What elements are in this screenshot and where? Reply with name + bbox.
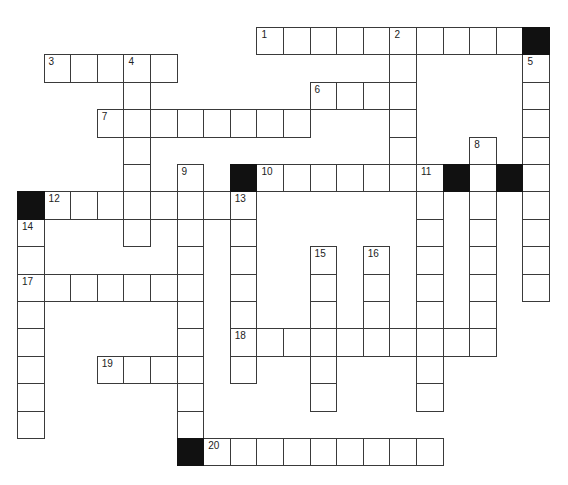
crossword-cell[interactable]: 1 <box>256 27 284 55</box>
crossword-cell[interactable]: 10 <box>256 164 284 192</box>
crossword-cell[interactable] <box>310 383 338 411</box>
crossword-cell[interactable] <box>230 109 258 137</box>
crossword-cell[interactable] <box>336 438 364 466</box>
crossword-cell[interactable] <box>256 328 284 356</box>
crossword-cell[interactable] <box>522 82 550 110</box>
crossword-cell[interactable] <box>522 274 550 302</box>
crossword-cell[interactable] <box>123 109 151 137</box>
crossword-cell[interactable] <box>283 164 311 192</box>
crossword-cell[interactable] <box>177 328 205 356</box>
crossword-cell[interactable] <box>283 109 311 137</box>
crossword-cell[interactable] <box>17 383 45 411</box>
crossword-cell[interactable] <box>123 137 151 165</box>
crossword-cell[interactable] <box>230 219 258 247</box>
crossword-cell[interactable] <box>97 274 125 302</box>
crossword-cell[interactable] <box>177 301 205 329</box>
crossword-cell[interactable] <box>230 274 258 302</box>
crossword-cell[interactable]: 6 <box>310 82 338 110</box>
crossword-cell[interactable] <box>522 164 550 192</box>
crossword-cell[interactable] <box>17 411 45 439</box>
crossword-cell[interactable] <box>123 191 151 219</box>
crossword-cell[interactable] <box>416 274 444 302</box>
crossword-cell[interactable] <box>177 274 205 302</box>
crossword-cell[interactable] <box>17 356 45 384</box>
crossword-cell[interactable] <box>522 246 550 274</box>
crossword-cell[interactable] <box>522 137 550 165</box>
crossword-cell[interactable] <box>416 191 444 219</box>
crossword-cell[interactable] <box>310 301 338 329</box>
crossword-cell[interactable] <box>522 219 550 247</box>
crossword-cell[interactable] <box>469 191 497 219</box>
crossword-cell[interactable] <box>310 27 338 55</box>
crossword-cell[interactable] <box>310 164 338 192</box>
crossword-cell[interactable]: 5 <box>522 54 550 82</box>
crossword-cell[interactable] <box>389 82 417 110</box>
crossword-cell[interactable] <box>44 274 72 302</box>
crossword-cell[interactable] <box>469 246 497 274</box>
crossword-cell[interactable]: 13 <box>230 191 258 219</box>
crossword-cell[interactable] <box>310 328 338 356</box>
crossword-cell[interactable]: 3 <box>44 54 72 82</box>
crossword-cell[interactable] <box>389 137 417 165</box>
crossword-cell[interactable]: 14 <box>17 219 45 247</box>
crossword-cell[interactable] <box>177 411 205 439</box>
crossword-cell[interactable] <box>123 164 151 192</box>
crossword-cell[interactable] <box>17 328 45 356</box>
crossword-cell[interactable] <box>363 27 391 55</box>
crossword-cell[interactable]: 18 <box>230 328 258 356</box>
crossword-cell[interactable]: 20 <box>203 438 231 466</box>
crossword-cell[interactable] <box>416 356 444 384</box>
crossword-cell[interactable] <box>283 328 311 356</box>
crossword-cell[interactable] <box>363 274 391 302</box>
crossword-cell[interactable] <box>416 328 444 356</box>
crossword-cell[interactable] <box>177 383 205 411</box>
crossword-cell[interactable] <box>17 301 45 329</box>
crossword-cell[interactable] <box>389 54 417 82</box>
crossword-cell[interactable]: 17 <box>17 274 45 302</box>
crossword-cell[interactable] <box>443 328 471 356</box>
crossword-cell[interactable] <box>389 164 417 192</box>
crossword-cell[interactable]: 11 <box>416 164 444 192</box>
crossword-cell[interactable] <box>389 438 417 466</box>
crossword-cell[interactable] <box>363 301 391 329</box>
crossword-cell[interactable] <box>150 191 178 219</box>
crossword-cell[interactable] <box>416 438 444 466</box>
crossword-cell[interactable] <box>70 54 98 82</box>
crossword-cell[interactable] <box>363 438 391 466</box>
crossword-cell[interactable] <box>177 191 205 219</box>
crossword-cell[interactable] <box>150 54 178 82</box>
crossword-cell[interactable] <box>336 164 364 192</box>
crossword-cell[interactable] <box>123 356 151 384</box>
crossword-cell[interactable] <box>336 82 364 110</box>
crossword-cell[interactable] <box>416 246 444 274</box>
crossword-cell[interactable] <box>469 27 497 55</box>
crossword-cell[interactable] <box>416 383 444 411</box>
crossword-cell[interactable] <box>469 164 497 192</box>
crossword-cell[interactable] <box>123 274 151 302</box>
crossword-cell[interactable] <box>522 109 550 137</box>
crossword-cell[interactable]: 7 <box>97 109 125 137</box>
crossword-cell[interactable] <box>203 109 231 137</box>
crossword-cell[interactable]: 19 <box>97 356 125 384</box>
crossword-cell[interactable]: 4 <box>123 54 151 82</box>
crossword-cell[interactable] <box>416 219 444 247</box>
crossword-cell[interactable] <box>70 191 98 219</box>
crossword-cell[interactable] <box>336 27 364 55</box>
crossword-cell[interactable] <box>416 27 444 55</box>
crossword-cell[interactable] <box>336 328 364 356</box>
crossword-cell[interactable] <box>177 356 205 384</box>
crossword-cell[interactable] <box>389 109 417 137</box>
crossword-cell[interactable] <box>310 274 338 302</box>
crossword-cell[interactable] <box>256 438 284 466</box>
crossword-cell[interactable] <box>177 219 205 247</box>
crossword-cell[interactable] <box>123 82 151 110</box>
crossword-cell[interactable] <box>363 328 391 356</box>
crossword-cell[interactable] <box>469 274 497 302</box>
crossword-cell[interactable]: 8 <box>469 137 497 165</box>
crossword-cell[interactable] <box>469 301 497 329</box>
crossword-cell[interactable] <box>230 246 258 274</box>
crossword-cell[interactable] <box>283 438 311 466</box>
crossword-cell[interactable] <box>389 328 417 356</box>
crossword-cell[interactable] <box>363 164 391 192</box>
crossword-cell[interactable] <box>97 191 125 219</box>
